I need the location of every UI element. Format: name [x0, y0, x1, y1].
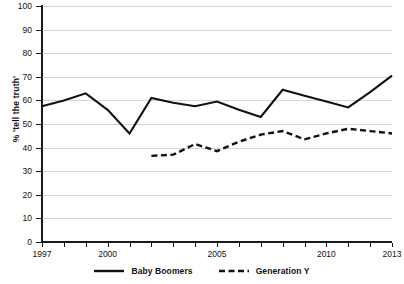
- x-axis-tick: [108, 243, 109, 247]
- legend-swatch-dashed-line-icon: [219, 267, 249, 275]
- x-axis-tick: [283, 243, 284, 247]
- x-axis-tick: [348, 243, 349, 247]
- y-axis-tick-label: 80: [0, 48, 32, 58]
- legend-label: Baby Boomers: [131, 266, 192, 276]
- x-axis-tick: [151, 243, 152, 247]
- x-axis-tick: [195, 243, 196, 247]
- x-axis-tick-label: 2013: [372, 249, 404, 259]
- x-axis-tick: [370, 243, 371, 247]
- x-axis-tick: [326, 243, 327, 247]
- x-axis-tick: [86, 243, 87, 247]
- x-axis-tick: [42, 243, 43, 247]
- series-line-generation-y: [151, 129, 392, 156]
- y-axis-tick-label: 30: [0, 166, 32, 176]
- line-chart: % 'tell the truth' 010203040506070809010…: [0, 0, 404, 284]
- legend-item-generation-y[interactable]: Generation Y: [219, 266, 310, 276]
- y-axis-tick-label: 10: [0, 213, 32, 223]
- chart-legend: Baby BoomersGeneration Y: [0, 266, 404, 276]
- legend-item-baby-boomers[interactable]: Baby Boomers: [94, 266, 192, 276]
- legend-swatch-solid-line-icon: [94, 267, 124, 275]
- y-axis-tick-label: 0: [0, 237, 32, 247]
- x-axis-tick: [217, 243, 218, 247]
- y-axis-tick-label: 60: [0, 95, 32, 105]
- y-axis-tick-label: 90: [0, 25, 32, 35]
- y-axis-title: % 'tell the truth': [11, 39, 21, 179]
- x-axis-tick-label: 1997: [22, 249, 62, 259]
- series-line-baby-boomers: [42, 76, 392, 134]
- y-axis-tick-label: 20: [0, 190, 32, 200]
- y-axis-tick-label: 50: [0, 119, 32, 129]
- x-axis-tick-label: 2005: [197, 249, 237, 259]
- y-axis-tick-label: 100: [0, 1, 32, 11]
- x-axis-tick: [239, 243, 240, 247]
- x-axis-tick: [173, 243, 174, 247]
- x-axis-tick-label: 2000: [88, 249, 128, 259]
- x-axis-tick: [130, 243, 131, 247]
- x-axis-tick: [305, 243, 306, 247]
- x-axis-tick: [392, 243, 393, 247]
- legend-label: Generation Y: [256, 266, 310, 276]
- x-axis-tick: [64, 243, 65, 247]
- x-axis-tick-label: 2010: [306, 249, 346, 259]
- y-axis-tick-label: 70: [0, 72, 32, 82]
- x-axis-tick: [261, 243, 262, 247]
- series-lines: [42, 6, 392, 242]
- y-axis-tick-label: 40: [0, 143, 32, 153]
